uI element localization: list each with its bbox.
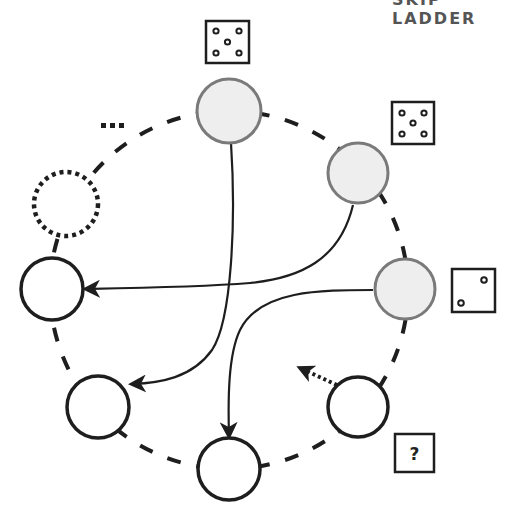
node-bottom[interactable]	[198, 438, 260, 500]
node-top[interactable]	[197, 79, 261, 143]
node-placeholder-dotted	[34, 172, 98, 236]
node-left[interactable]	[21, 258, 83, 320]
skip-arrow-upper-right-to-left	[86, 205, 353, 289]
node-right[interactable]	[375, 259, 435, 319]
node-lower-right[interactable]	[328, 377, 388, 437]
die-five-icon-right	[392, 102, 434, 144]
ellipsis-icon	[101, 123, 124, 128]
dotted-arrow-backward	[300, 368, 337, 385]
node-lower-left[interactable]	[67, 376, 129, 438]
die-unknown-icon: ?	[395, 434, 434, 472]
skip-arrow-top-to-lower-left	[132, 143, 233, 384]
node-upper-right[interactable]	[328, 143, 388, 203]
die-five-icon-top	[206, 21, 249, 63]
die-two-icon	[452, 269, 495, 312]
skip-ring-diagram: ?	[0, 0, 524, 523]
unknown-die-label: ?	[410, 444, 420, 464]
